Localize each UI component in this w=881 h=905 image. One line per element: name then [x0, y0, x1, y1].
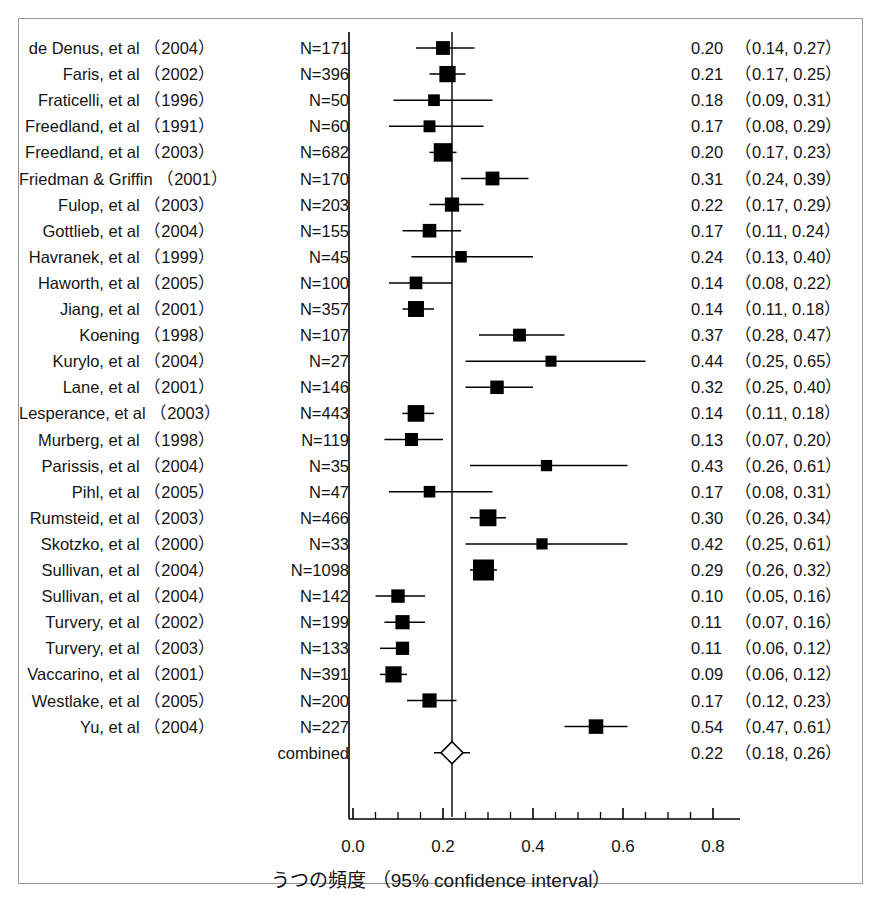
study-label: Haworth, et al （2005）	[19, 270, 215, 296]
confidence-interval-value: （0.25, 0.61）	[735, 531, 881, 557]
confidence-interval-value: （0.08, 0.31）	[735, 479, 881, 505]
study-sample-size: N=391	[219, 661, 349, 687]
forest-row: Friedman & Griffin （2001）N=1700.31（0.24,…	[19, 166, 864, 192]
study-sample-size: N=227	[219, 714, 349, 740]
confidence-interval-value: （0.11, 0.18）	[735, 400, 881, 426]
confidence-interval-value: （0.26, 0.32）	[735, 557, 881, 583]
forest-row: Gottlieb, et al （2004）N=1550.17（0.11, 0.…	[19, 218, 864, 244]
study-label: Lane, et al （2001）	[19, 374, 215, 400]
x-axis-tick-labels: 0.00.20.40.60.8	[19, 837, 864, 863]
study-sample-size: N=27	[219, 348, 349, 374]
study-sample-size: N=119	[219, 427, 349, 453]
forest-row: Koening （1998）N=1070.37（0.28, 0.47）	[19, 322, 864, 348]
study-label: Fulop, et al （2003）	[19, 192, 215, 218]
study-label: Friedman & Griffin （2001）	[19, 166, 215, 192]
forest-row: Freedland, et al （2003）N=6820.20（0.17, 0…	[19, 139, 864, 165]
confidence-interval-value: （0.25, 0.40）	[735, 374, 881, 400]
study-label: Yu, et al （2004）	[19, 714, 215, 740]
forest-row: Westlake, et al （2005）N=2000.17（0.12, 0.…	[19, 688, 864, 714]
forest-row: Jiang, et al （2001）N=3570.14（0.11, 0.18）	[19, 296, 864, 322]
study-sample-size: N=47	[219, 479, 349, 505]
study-label: Turvery, et al （2003）	[19, 635, 215, 661]
forest-row: Haworth, et al （2005）N=1000.14（0.08, 0.2…	[19, 270, 864, 296]
x-axis-label: うつの頻度 （95% confidence interval）	[19, 865, 864, 892]
study-sample-size: N=171	[219, 35, 349, 61]
forest-row: Fulop, et al （2003）N=2030.22（0.17, 0.29）	[19, 192, 864, 218]
confidence-interval-value: （0.14, 0.27）	[735, 35, 881, 61]
study-label: Sullivan, et al （2004）	[19, 583, 215, 609]
study-sample-size: N=682	[219, 139, 349, 165]
forest-row: Parissis, et al （2004）N=350.43（0.26, 0.6…	[19, 453, 864, 479]
confidence-interval-value: （0.26, 0.61）	[735, 453, 881, 479]
forest-plot-area: de Denus, et al （2004）N=1710.20（0.14, 0.…	[19, 19, 862, 883]
study-sample-size: N=466	[219, 505, 349, 531]
forest-row: Lane, et al （2001）N=1460.32（0.25, 0.40）	[19, 374, 864, 400]
forest-row: Rumsteid, et al （2003）N=4660.30（0.26, 0.…	[19, 505, 864, 531]
study-sample-size: N=170	[219, 166, 349, 192]
confidence-interval-value: （0.09, 0.31）	[735, 87, 881, 113]
study-sample-size: N=199	[219, 609, 349, 635]
study-label: Turvery, et al （2002）	[19, 609, 215, 635]
study-label: Koening （1998）	[19, 322, 215, 348]
forest-row: Vaccarino, et al （2001）N=3910.09（0.06, 0…	[19, 661, 864, 687]
study-sample-size: N=107	[219, 322, 349, 348]
confidence-interval-value: （0.11, 0.18）	[735, 296, 881, 322]
forest-row: Faris, et al （2002）N=3960.21（0.17, 0.25）	[19, 61, 864, 87]
study-sample-size: N=155	[219, 218, 349, 244]
confidence-interval-value: （0.17, 0.29）	[735, 192, 881, 218]
forest-row: Havranek, et al （1999）N=450.24（0.13, 0.4…	[19, 244, 864, 270]
study-sample-size: N=33	[219, 531, 349, 557]
study-sample-size: N=357	[219, 296, 349, 322]
forest-row-combined: combined0.22（0.18, 0.26）	[19, 740, 864, 766]
confidence-interval-value: （0.47, 0.61）	[735, 714, 881, 740]
study-label: Gottlieb, et al （2004）	[19, 218, 215, 244]
confidence-interval-value: （0.17, 0.23）	[735, 139, 881, 165]
study-sample-size: N=396	[219, 61, 349, 87]
forest-row: Yu, et al （2004）N=2270.54（0.47, 0.61）	[19, 714, 864, 740]
forest-row: Sullivan, et al （2004）N=1420.10（0.05, 0.…	[19, 583, 864, 609]
study-label: Westlake, et al （2005）	[19, 688, 215, 714]
study-label: Vaccarino, et al （2001）	[19, 661, 215, 687]
combined-label: combined	[219, 740, 349, 766]
confidence-interval-value: （0.12, 0.23）	[735, 688, 881, 714]
study-sample-size: N=142	[219, 583, 349, 609]
x-axis-tick-label: 0.6	[593, 837, 653, 857]
forest-plot-figure: de Denus, et al （2004）N=1710.20（0.14, 0.…	[18, 18, 863, 884]
forest-row: Turvery, et al （2002）N=1990.11（0.07, 0.1…	[19, 609, 864, 635]
study-label: Freedland, et al （2003）	[19, 139, 215, 165]
confidence-interval-value: （0.07, 0.16）	[735, 609, 881, 635]
forest-row: Turvery, et al （2003）N=1330.11（0.06, 0.1…	[19, 635, 864, 661]
confidence-interval-value: （0.28, 0.47）	[735, 322, 881, 348]
forest-row: Fraticelli, et al （1996）N=500.18（0.09, 0…	[19, 87, 864, 113]
forest-row: Pihl, et al （2005）N=470.17（0.08, 0.31）	[19, 479, 864, 505]
study-sample-size: N=1098	[219, 557, 349, 583]
study-sample-size: N=50	[219, 87, 349, 113]
study-sample-size: N=133	[219, 635, 349, 661]
confidence-interval-value: （0.24, 0.39）	[735, 166, 881, 192]
study-label: Murberg, et al （1998）	[19, 427, 215, 453]
study-sample-size: N=443	[219, 400, 349, 426]
study-label: Pihl, et al （2005）	[19, 479, 215, 505]
study-label: Faris, et al （2002）	[19, 61, 215, 87]
study-label: Freedland, et al （1991）	[19, 113, 215, 139]
study-sample-size: N=146	[219, 374, 349, 400]
study-sample-size: N=60	[219, 113, 349, 139]
confidence-interval-value: （0.08, 0.29）	[735, 113, 881, 139]
study-sample-size: N=203	[219, 192, 349, 218]
confidence-interval-value: （0.08, 0.22）	[735, 270, 881, 296]
study-label: Sullivan, et al （2004）	[19, 557, 215, 583]
forest-row: Murberg, et al （1998）N=1190.13（0.07, 0.2…	[19, 427, 864, 453]
forest-row: Skotzko, et al （2000）N=330.42（0.25, 0.61…	[19, 531, 864, 557]
forest-row: de Denus, et al （2004）N=1710.20（0.14, 0.…	[19, 35, 864, 61]
confidence-interval-value: （0.11, 0.24）	[735, 218, 881, 244]
confidence-interval-value: （0.06, 0.12）	[735, 661, 881, 687]
confidence-interval-value: （0.17, 0.25）	[735, 61, 881, 87]
confidence-interval-value: （0.13, 0.40）	[735, 244, 881, 270]
forest-row: Freedland, et al （1991）N=600.17（0.08, 0.…	[19, 113, 864, 139]
study-label: Rumsteid, et al （2003）	[19, 505, 215, 531]
confidence-interval-value: （0.26, 0.34）	[735, 505, 881, 531]
study-label: Lesperance, et al （2003）	[19, 400, 215, 426]
study-sample-size: N=45	[219, 244, 349, 270]
confidence-interval-value: （0.05, 0.16）	[735, 583, 881, 609]
study-sample-size: N=35	[219, 453, 349, 479]
